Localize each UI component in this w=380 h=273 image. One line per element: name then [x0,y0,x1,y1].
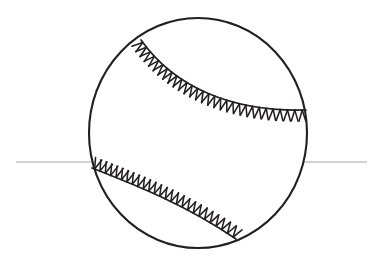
baseball-illustration [0,0,380,273]
ball-outline [89,18,307,248]
upper-seam-stitch [246,105,247,116]
drawing-canvas [0,0,380,273]
upper-seam-stitch [239,104,240,115]
ball-group [89,18,307,248]
